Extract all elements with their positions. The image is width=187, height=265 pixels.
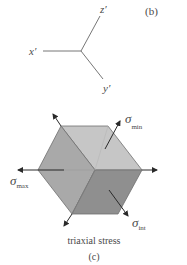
z-axis-label: z′	[99, 3, 107, 15]
panel-b-label: (b)	[145, 5, 158, 18]
sigma-max-label: σmax	[10, 173, 29, 190]
sigma-int-label: σint	[132, 215, 146, 232]
y-axis-line	[81, 51, 103, 79]
figure-caption: triaxial stress	[67, 235, 120, 246]
x-axis-label: x′	[28, 45, 37, 57]
sigma-min-subscript: min	[131, 123, 142, 131]
panel-b: x′ z′ y′ (b)	[28, 3, 158, 94]
sigma-min-label: σmin	[125, 111, 143, 131]
z-axis-line	[81, 16, 100, 51]
sigma-max-subscript: max	[16, 182, 29, 190]
panel-c-label: (c)	[88, 251, 99, 263]
arrow-downleft	[64, 214, 72, 226]
panel-c: σmin σmax σint triaxial stress (c)	[10, 111, 157, 263]
arrow-upleft	[53, 114, 61, 126]
sigma-int-subscript: int	[138, 224, 145, 232]
stress-diagram: x′ z′ y′ (b) σmin σmax σint triaxial str…	[0, 0, 187, 265]
y-axis-label: y′	[102, 82, 111, 94]
